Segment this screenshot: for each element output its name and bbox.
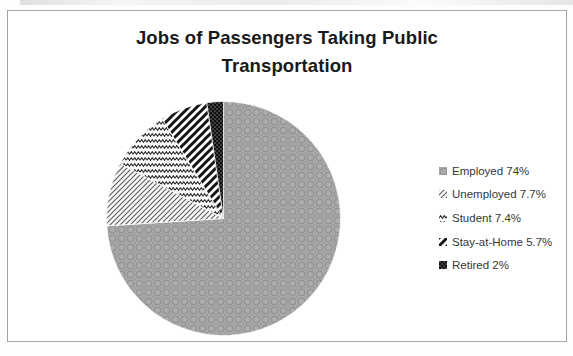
legend-item-stay-at-home: Stay-at-Home 5.7% <box>439 234 552 249</box>
legend-item-unemployed: Unemployed 7.7% <box>439 187 552 202</box>
legend-swatch-retired <box>439 261 447 269</box>
legend-label-employed: Employed 74% <box>452 165 529 177</box>
legend-swatch-stay-at-home <box>439 238 447 246</box>
legend-label-retired: Retired 2% <box>452 259 509 271</box>
legend-item-retired: Retired 2% <box>439 258 552 273</box>
legend: Employed 74% Unemployed 7.7% Student 7.4… <box>439 163 552 281</box>
legend-swatch-student <box>439 214 447 222</box>
chart-page: Jobs of Passengers Taking Public Transpo… <box>0 0 573 356</box>
legend-swatch-employed <box>439 167 447 175</box>
legend-label-unemployed: Unemployed 7.7% <box>452 188 546 200</box>
legend-label-student: Student 7.4% <box>452 212 521 224</box>
legend-item-employed: Employed 74% <box>439 163 552 178</box>
legend-item-student: Student 7.4% <box>439 210 552 225</box>
legend-label-stay-at-home: Stay-at-Home 5.7% <box>452 236 552 248</box>
legend-swatch-unemployed <box>439 190 447 198</box>
